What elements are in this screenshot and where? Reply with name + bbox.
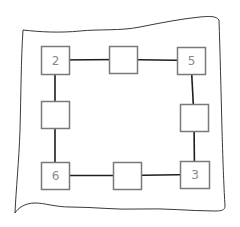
diagram-canvas: 2563 <box>0 0 240 227</box>
box-middle-left[interactable] <box>42 102 70 129</box>
puzzle-diagram: 2563 <box>0 0 240 227</box>
box-bottom-left[interactable]: 6 <box>42 163 70 190</box>
box-number: 3 <box>191 168 199 182</box>
box-number: 6 <box>52 169 60 183</box>
box-number: 5 <box>188 54 196 68</box>
box-frame[interactable] <box>110 47 138 74</box>
box-number: 2 <box>52 54 60 68</box>
box-bottom-middle[interactable] <box>114 163 142 190</box>
box-top-right[interactable]: 5 <box>178 48 206 75</box>
box-middle-right[interactable] <box>181 105 209 132</box>
box-frame[interactable] <box>42 102 70 129</box>
box-frame[interactable] <box>114 163 142 190</box>
box-top-middle[interactable] <box>110 47 138 74</box>
box-top-left[interactable]: 2 <box>42 47 70 75</box>
box-frame[interactable] <box>181 105 209 132</box>
box-bottom-right[interactable]: 3 <box>181 162 210 189</box>
